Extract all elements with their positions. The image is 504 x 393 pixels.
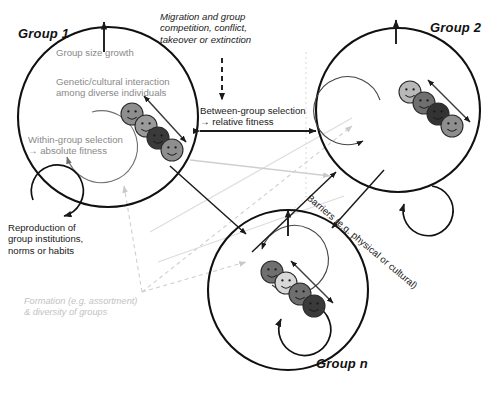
between-group-selection-label: Between-group selection → relative fitne…	[200, 105, 306, 128]
reproduction-loop-groupn	[279, 306, 331, 355]
group2-title: Group 2	[430, 20, 481, 35]
groupn-title: Group n	[316, 356, 368, 371]
group1-face-cluster	[121, 103, 183, 161]
reproduction-loop-group2	[403, 186, 453, 236]
group2-inner-loop	[314, 77, 380, 145]
within-group-selection-label: Within-group selection → absolute fitnes…	[28, 134, 123, 157]
diagram-canvas: Group 1 Group 2 Group n Group size growt…	[0, 0, 504, 393]
reproduction-label: Reproduction of group institutions, norm…	[8, 222, 83, 256]
formation-label: Formation (e.g. assortment) & diversity …	[24, 296, 137, 318]
group-size-growth-label: Group size growth	[56, 47, 134, 58]
group2-face-cluster	[399, 81, 463, 137]
groupn-face-cluster	[261, 261, 325, 317]
group1-title: Group 1	[18, 26, 69, 41]
group2-circle	[316, 28, 480, 192]
genetic-cultural-interaction-label: Genetic/cultural interaction among diver…	[56, 76, 170, 99]
migration-label: Migration and group competition, conflic…	[160, 11, 251, 45]
diagram-vector-layer	[0, 0, 504, 393]
